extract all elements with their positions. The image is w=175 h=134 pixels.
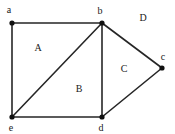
vertex-d [99,114,104,119]
edge-b-e [12,23,102,117]
edge-layer [12,23,162,117]
vertex-label-c: c [161,52,165,62]
vertex-layer [9,20,164,119]
vertex-e [9,114,14,119]
region-label-C: C [121,64,128,74]
graph-canvas [0,0,175,134]
vertex-c [159,65,164,70]
region-label-D: D [139,13,146,23]
vertex-label-e: e [9,123,13,133]
edge-c-d [102,68,162,117]
region-label-B: B [76,84,83,94]
vertex-label-a: a [7,5,11,15]
edge-b-c [102,23,162,68]
vertex-label-d: d [99,123,104,133]
vertex-label-b: b [98,6,103,16]
graph-figure: abcde ABCD [0,0,175,134]
vertex-b [99,20,104,25]
region-label-A: A [34,43,41,53]
vertex-a [9,20,14,25]
